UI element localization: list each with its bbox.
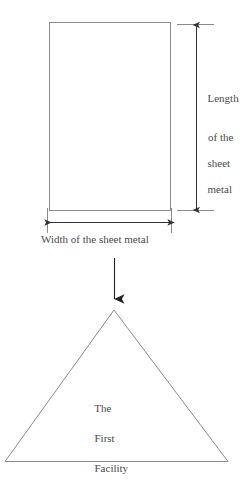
length-label-line-2: of the bbox=[202, 131, 247, 144]
length-label-line-4: metal bbox=[208, 183, 232, 195]
length-dimension-label: Length of the sheet metal bbox=[202, 79, 247, 196]
facility-label-line-1: The bbox=[94, 402, 111, 414]
facility-label-line-3: Facility bbox=[95, 462, 129, 474]
first-facility-label: The First Facility bbox=[89, 386, 159, 476]
width-dimension-label: Width of the sheet metal bbox=[41, 233, 181, 246]
length-label-line-1: Length bbox=[208, 92, 239, 104]
facility-label-line-2: First bbox=[95, 432, 115, 444]
sheet-metal-rectangle bbox=[50, 23, 171, 211]
length-label-line-3: sheet bbox=[208, 157, 231, 169]
